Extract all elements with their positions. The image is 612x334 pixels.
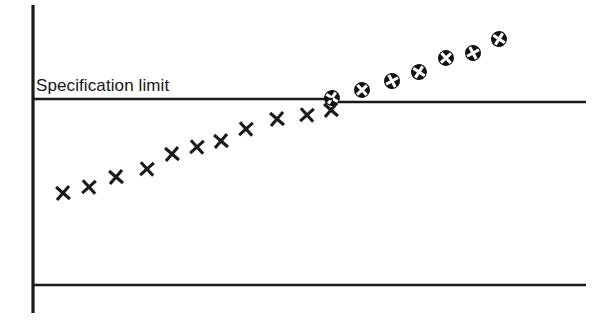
data-point-x-mark bbox=[270, 112, 284, 126]
series-beyond-specification bbox=[323, 30, 509, 108]
data-point-circled-x-mark bbox=[382, 71, 402, 91]
run-chart-figure: Specification limit bbox=[0, 0, 612, 334]
data-point-x-mark bbox=[239, 122, 253, 136]
data-point-x-mark bbox=[300, 108, 314, 122]
data-point-x-mark bbox=[214, 134, 228, 148]
data-point-circled-x-mark bbox=[410, 63, 429, 82]
axes-group bbox=[33, 5, 586, 313]
data-point-circled-x-mark bbox=[438, 50, 455, 67]
data-point-circled-x-mark bbox=[354, 82, 371, 99]
data-point-x-mark bbox=[190, 140, 204, 154]
specification-limit-label: Specification limit bbox=[36, 76, 169, 96]
data-point-x-mark bbox=[82, 180, 96, 194]
plot-area bbox=[0, 0, 612, 334]
data-point-x-mark bbox=[165, 147, 179, 161]
data-point-x-mark bbox=[109, 170, 123, 184]
data-point-circled-x-mark bbox=[463, 43, 483, 63]
series-within-specification bbox=[56, 103, 338, 200]
data-point-x-mark bbox=[140, 162, 154, 176]
data-point-circled-x-mark bbox=[490, 30, 509, 49]
data-point-x-mark bbox=[56, 186, 70, 200]
